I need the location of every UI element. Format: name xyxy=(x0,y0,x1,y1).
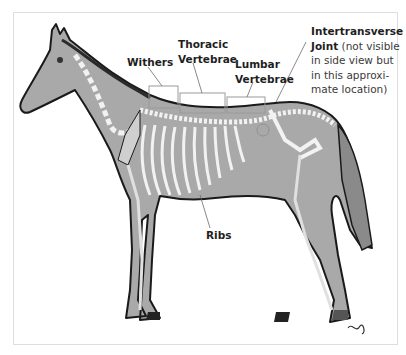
hoof-front xyxy=(146,312,160,320)
artist-signature xyxy=(348,325,364,334)
label-ribs: Ribs xyxy=(206,228,231,243)
label-withers: Withers xyxy=(127,55,173,70)
hoof-hind xyxy=(274,312,290,322)
label-intertransverse-joint: Intertransverse Joint (not visible in si… xyxy=(311,24,403,97)
label-thoracic-vertebrae: ThoracicVertebrae xyxy=(178,37,237,66)
horse-tail xyxy=(338,125,372,250)
withers-leader xyxy=(148,67,162,86)
thoracic-leader xyxy=(193,63,202,93)
hoof-hind-2 xyxy=(332,310,348,320)
label-lumbar-vertebrae: LumbarVertebrae xyxy=(235,57,294,86)
horse-eye xyxy=(57,57,63,63)
